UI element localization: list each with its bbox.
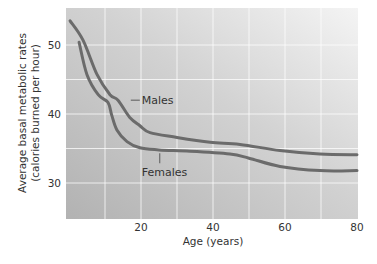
x-tick-label: 40 xyxy=(206,221,219,233)
x-tick-label: 80 xyxy=(350,221,363,233)
x-tick-label: 60 xyxy=(278,221,291,233)
y-tick-label: 50 xyxy=(48,39,61,51)
x-tick-label: 20 xyxy=(134,221,147,233)
y-axis-label-line-2: (calories burned per hour) xyxy=(29,44,41,182)
x-axis-label: Age (years) xyxy=(183,235,244,247)
males-label: Males xyxy=(142,94,174,107)
y-tick-label: 30 xyxy=(48,177,61,189)
chart: 20406080304050 Males Females Age (years)… xyxy=(0,0,377,264)
y-axis-label-line-1: Average basal metabolic rates xyxy=(16,33,28,193)
y-tick-label: 40 xyxy=(48,108,61,120)
females-label: Females xyxy=(142,166,188,179)
y-axis-label: Average basal metabolic rates (calories … xyxy=(16,33,41,193)
